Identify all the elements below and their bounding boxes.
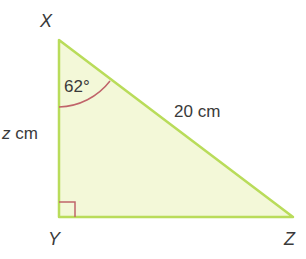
side-label-xy: z cm xyxy=(1,124,38,143)
triangle-xyz xyxy=(59,40,293,217)
vertex-label-z: Z xyxy=(283,229,296,249)
side-variable: z xyxy=(1,124,11,143)
angle-label: 62° xyxy=(64,77,90,96)
vertex-label-y: Y xyxy=(48,229,62,249)
side-unit: cm xyxy=(11,124,38,143)
triangle-diagram: X Y Z 62° 20 cm z cm xyxy=(0,0,306,259)
vertex-label-x: X xyxy=(39,11,53,31)
hypotenuse-label: 20 cm xyxy=(174,102,220,121)
